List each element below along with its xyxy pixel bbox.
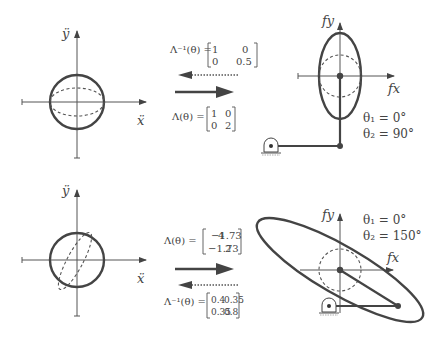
svg-text:1: 1 (211, 108, 217, 119)
arrowhead-left (178, 281, 192, 289)
theta2-label: θ₂ = 90° (363, 127, 414, 141)
svg-text:0: 0 (212, 56, 218, 67)
svg-text:−1.73: −1.73 (211, 230, 242, 241)
fx-label: fx (387, 81, 401, 96)
top-output-space: fy fx θ₁ = 0° θ₂ = 90° (261, 13, 414, 155)
base-pivot (261, 138, 281, 155)
bottom-output-space: fy fx θ₁ = 0° θ₂ = 150° (246, 202, 435, 339)
svg-text:0.8: 0.8 (224, 307, 239, 317)
forward-matrix: 1 0 0 2 (207, 107, 235, 131)
svg-text:2: 2 (225, 120, 231, 131)
theta1-label: θ₁ = 0° (363, 213, 406, 227)
top-maps: Λ⁻¹(θ) = 1 0 0 0.5 Λ(θ) = 1 0 0 2 (169, 43, 257, 131)
fy-label: fy (321, 207, 335, 222)
svg-text:−1.73: −1.73 (208, 243, 239, 254)
arrowhead-left (178, 71, 192, 79)
base-pivot (319, 298, 339, 315)
svg-text:0: 0 (225, 108, 231, 119)
theta1-label: θ₁ = 0° (363, 111, 406, 125)
y-axis-label: ÿ (61, 26, 70, 41)
end-effector (337, 267, 343, 273)
fx-label: fx (386, 250, 400, 265)
x-axis-label: ẍ (137, 113, 145, 128)
inverse-map-lhs: Λ⁻¹(θ) = (169, 44, 212, 55)
inverse-map-lhs: Λ⁻¹(θ) = (163, 296, 206, 307)
svg-text:1: 1 (212, 44, 218, 55)
arrowhead-right (216, 86, 234, 98)
x-axis-label: ẍ (137, 271, 145, 286)
inverse-matrix: 1 0 0 0.5 (208, 43, 257, 67)
forward-map-lhs: Λ(θ) = (163, 235, 197, 246)
svg-text:2: 2 (225, 243, 231, 254)
inverse-matrix: 0.4 0.35 0.35 0.8 (207, 293, 244, 318)
forward-map-lhs: Λ(θ) = (171, 111, 205, 122)
svg-text:0.35: 0.35 (224, 295, 244, 305)
end-effector (337, 73, 343, 79)
joint (337, 143, 343, 149)
forward-matrix: 4 −1.73 −1.73 2 (203, 229, 242, 254)
bottom-input-space: ÿ ẍ (22, 183, 146, 316)
fy-label: fy (321, 13, 335, 28)
arrowhead-right (216, 263, 234, 275)
joint (395, 303, 401, 309)
diagram-canvas: ÿ ẍ Λ⁻¹(θ) = 1 0 0 0.5 Λ(θ) = 1 0 0 2 (0, 0, 448, 339)
y-axis-label: ÿ (61, 183, 70, 198)
theta2-label: θ₂ = 150° (363, 229, 422, 243)
top-input-space: ÿ ẍ (22, 26, 146, 158)
svg-text:0: 0 (242, 44, 248, 55)
bottom-maps: Λ(θ) = 4 −1.73 −1.73 2 Λ⁻¹(θ) = 0.4 0.35… (163, 229, 244, 318)
svg-text:0: 0 (211, 120, 217, 131)
svg-text:0.5: 0.5 (236, 56, 252, 67)
